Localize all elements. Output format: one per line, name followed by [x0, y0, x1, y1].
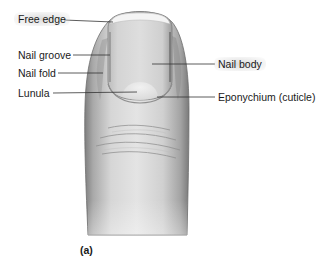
label-eponychium: Eponychium (cuticle) — [218, 91, 315, 103]
figure-stage: Free edge Nail groove Nail fold Lunula N… — [0, 0, 321, 270]
label-free-edge: Free edge — [14, 12, 70, 26]
label-nail-body: Nail body — [214, 57, 266, 71]
label-nail-groove: Nail groove — [18, 49, 71, 61]
label-nail-fold: Nail fold — [18, 67, 56, 79]
label-lunula: Lunula — [18, 87, 50, 99]
leader-line-free-edge — [64, 20, 113, 22]
finger-illustration — [0, 0, 321, 270]
panel-label: (a) — [80, 244, 93, 256]
